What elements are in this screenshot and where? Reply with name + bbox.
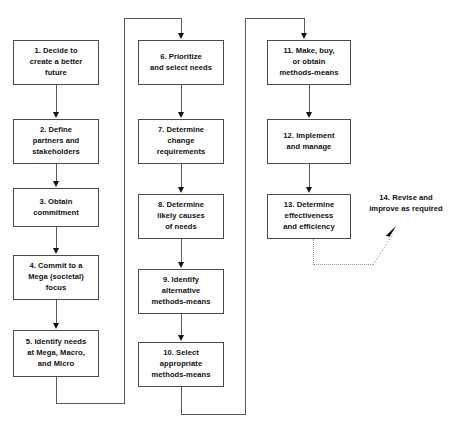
flow-node-3[interactable]: 3. Obtain commitment: [13, 188, 99, 227]
flow-node-11-line-2: or obtain: [280, 57, 339, 68]
flow-node-7[interactable]: 7. Determine change requirements: [138, 119, 224, 164]
flow-node-14[interactable]: 14. Revise and improve as required: [366, 193, 446, 215]
flow-node-8-line-1: 8. Determine: [157, 200, 205, 211]
edge-8-to-9-line: [181, 239, 182, 263]
edge-5-to-6-segment-right: [56, 403, 124, 404]
flow-node-3-line-2: commitment: [33, 208, 79, 219]
flow-node-4[interactable]: 4. Commit to a Mega (societal) focus: [13, 255, 99, 300]
flow-node-13-line-3: and efficiency: [283, 222, 334, 233]
flow-node-10-line-3: methods-means: [152, 370, 211, 381]
edge-12-to-13-arrowhead: [306, 187, 312, 193]
edge-7-to-8-arrowhead: [178, 187, 184, 193]
flow-node-12-line-2: and manage: [283, 142, 334, 153]
edge-13-to-14-dotted-right: [313, 264, 373, 265]
flow-node-2[interactable]: 2. Define partners and stakeholders: [13, 119, 99, 164]
flow-node-8-line-2: likely causes: [157, 211, 205, 222]
edge-6-to-7-line: [181, 85, 182, 113]
flow-node-1-line-1: 1. Decide to: [30, 46, 83, 57]
flow-node-8-line-3: of needs: [157, 222, 205, 233]
edge-5-to-6-segment-down: [56, 377, 57, 404]
flow-node-10-line-2: appropriate: [152, 359, 211, 370]
edge-11-to-12-arrowhead: [306, 112, 312, 118]
flow-node-7-line-1: 7. Determine: [157, 125, 206, 136]
flow-node-6[interactable]: 6. Prioritize and select needs: [138, 40, 224, 85]
flow-node-9-line-1: 9. Identify: [152, 275, 211, 286]
edge-3-to-4-line: [56, 227, 57, 249]
flow-node-12-line-1: 12. Implement: [283, 131, 334, 142]
flow-node-2-line-3: stakeholders: [32, 147, 79, 158]
flow-node-4-line-1: 4. Commit to a: [28, 261, 84, 272]
edge-7-to-8-line: [181, 164, 182, 188]
edge-10-to-11-segment-top: [245, 18, 304, 19]
flow-node-10-line-1: 10. Select: [152, 348, 211, 359]
edge-13-to-14-arrowhead: [384, 226, 398, 240]
edge-10-to-11-rail-up: [245, 18, 246, 415]
flow-node-10[interactable]: 10. Select appropriate methods-means: [138, 342, 224, 387]
edge-1-to-2-arrowhead: [53, 112, 59, 118]
flow-node-14-line-3: required: [412, 204, 443, 213]
edge-11-to-12-line: [309, 85, 310, 113]
edge-8-to-9-arrowhead: [178, 262, 184, 268]
flow-node-5-line-2: at Mega, Macro,: [26, 348, 86, 359]
flow-node-11-line-1: 11. Make, buy,: [280, 46, 339, 57]
flow-node-1-line-2: create a better: [30, 57, 83, 68]
flow-node-14-line-1: 14. Revise and: [379, 193, 432, 202]
edge-5-to-6-segment-drop: [181, 18, 182, 34]
flow-node-5[interactable]: 5. Identify needs at Mega, Macro, and Mi…: [13, 330, 99, 377]
flow-node-14-line-2: improve as: [369, 204, 410, 213]
edge-10-to-11-segment-right: [181, 414, 245, 415]
flow-node-4-line-3: focus: [28, 283, 84, 294]
flow-node-11-line-3: methods-means: [280, 68, 339, 79]
edge-5-to-6-segment-top: [124, 18, 181, 19]
flow-node-1[interactable]: 1. Decide to create a better future: [13, 40, 99, 85]
edge-5-to-6-rail-up: [124, 18, 125, 404]
flow-node-5-line-3: and Micro: [26, 359, 86, 370]
flow-node-13-line-2: effectiveness: [283, 211, 334, 222]
flow-node-5-line-1: 5. Identify needs: [26, 337, 86, 348]
edge-12-to-13-line: [309, 164, 310, 188]
flow-node-2-line-1: 2. Define: [32, 125, 79, 136]
flow-node-9-line-3: methods-means: [152, 297, 211, 308]
flow-node-9-line-2: alternative: [152, 286, 211, 297]
edge-10-to-11-segment-drop: [304, 18, 305, 34]
flow-node-8[interactable]: 8. Determine likely causes of needs: [138, 194, 224, 239]
flow-node-3-line-1: 3. Obtain: [33, 197, 79, 208]
flow-node-9[interactable]: 9. Identify alternative methods-means: [138, 269, 224, 314]
flow-node-1-line-3: future: [30, 68, 83, 79]
edge-4-to-5-arrowhead: [53, 323, 59, 329]
flow-node-11[interactable]: 11. Make, buy, or obtain methods-means: [267, 40, 351, 85]
flow-node-4-line-2: Mega (societal): [28, 272, 84, 283]
flow-node-13-line-1: 13. Determine: [283, 200, 334, 211]
edge-9-to-10-line: [181, 314, 182, 336]
flow-node-7-line-2: change: [157, 136, 206, 147]
edge-10-to-11-segment-down: [181, 387, 182, 415]
edge-9-to-10-arrowhead: [178, 335, 184, 341]
flow-node-2-line-2: partners and: [32, 136, 79, 147]
edge-2-to-3-line: [56, 164, 57, 182]
flow-node-6-line-2: and select needs: [150, 63, 212, 74]
edge-10-to-11-arrowhead: [301, 33, 307, 39]
edge-6-to-7-arrowhead: [178, 112, 184, 118]
flow-node-13[interactable]: 13. Determine effectiveness and efficien…: [267, 194, 351, 239]
edge-2-to-3-arrowhead: [53, 181, 59, 187]
edge-13-to-14-dotted-down: [313, 239, 314, 265]
edge-5-to-6-arrowhead: [178, 33, 184, 39]
edge-1-to-2-line: [56, 85, 57, 113]
flowchart-canvas: 1. Decide to create a better future 2. D…: [0, 0, 449, 423]
flow-node-6-line-1: 6. Prioritize: [150, 52, 212, 63]
flow-node-7-line-3: requirements: [157, 147, 206, 158]
flow-node-12[interactable]: 12. Implement and manage: [267, 119, 351, 164]
edge-3-to-4-arrowhead: [53, 248, 59, 254]
edge-4-to-5-line: [56, 300, 57, 324]
